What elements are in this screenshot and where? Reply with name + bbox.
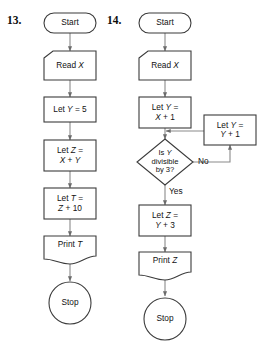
node-13-print-shape	[44, 236, 96, 264]
node-13-letz-shape	[44, 140, 96, 171]
node-14-read-shape	[139, 51, 191, 80]
node-14-start-shape	[139, 13, 191, 33]
problem-number-14: 14.	[107, 15, 121, 27]
node-13-read-shape	[44, 51, 96, 80]
node-13-lett-shape	[44, 188, 96, 219]
node-14-print-shape	[139, 252, 191, 280]
edge-label-yes: Yes	[169, 187, 183, 196]
node-14-increment-shape	[204, 115, 256, 145]
node-14-letz-shape	[139, 205, 191, 236]
flowchart-figure: 13. Start Read X Let Y = 5 Let Z = X + Y…	[0, 0, 266, 344]
node-13-lety-shape	[44, 97, 96, 122]
problem-number-13: 13.	[7, 15, 21, 27]
flowchart-shapes-layer	[0, 0, 266, 344]
node-13-start-shape	[44, 13, 96, 33]
node-14-lety-shape	[139, 97, 191, 128]
node-14-decision-shape	[137, 139, 193, 185]
node-14-stop-shape	[144, 298, 186, 340]
edge-label-no: No	[198, 157, 209, 166]
node-13-stop-shape	[49, 282, 91, 324]
